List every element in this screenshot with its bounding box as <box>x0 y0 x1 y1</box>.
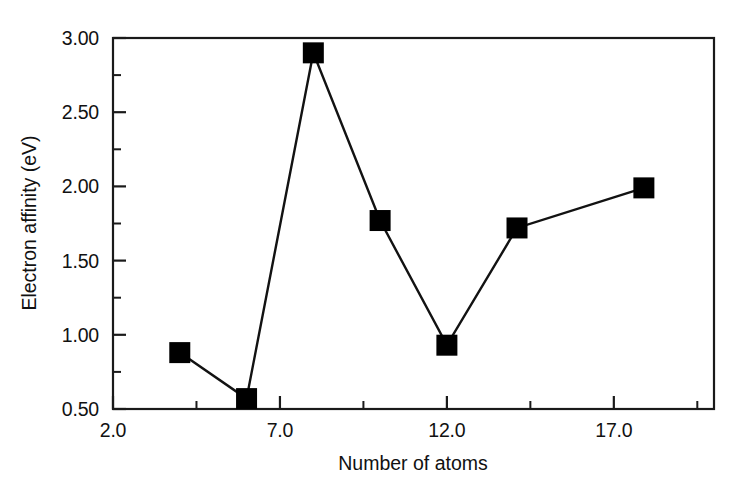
series-markers <box>169 42 654 409</box>
data-point-marker <box>370 210 391 231</box>
data-point-marker <box>633 177 654 198</box>
y-tick-label: 2.00 <box>62 175 99 198</box>
y-tick-label: 2.50 <box>62 101 99 124</box>
x-tick-label: 17.0 <box>595 419 632 442</box>
axes-frame <box>113 38 714 409</box>
y-tick-label: 0.50 <box>62 398 99 421</box>
data-series <box>169 42 654 409</box>
x-tick-label: 12.0 <box>428 419 465 442</box>
x-axis-title: Number of atoms <box>338 452 488 475</box>
axis-ticks <box>113 38 697 409</box>
data-point-marker <box>507 217 528 238</box>
data-point-marker <box>436 335 457 356</box>
x-tick-label: 2.0 <box>100 419 127 442</box>
y-tick-label: 1.00 <box>62 323 99 346</box>
series-line <box>180 53 644 399</box>
data-point-marker <box>236 388 257 409</box>
x-tick-label: 7.0 <box>267 419 294 442</box>
data-point-marker <box>169 342 190 363</box>
y-tick-label: 3.00 <box>62 27 99 50</box>
plot-frame <box>113 38 714 409</box>
y-tick-label: 1.50 <box>62 249 99 272</box>
figure-container: 3.002.502.001.501.000.50 2.07.012.017.0 … <box>0 0 744 492</box>
data-point-marker <box>303 42 324 63</box>
y-axis-title: Electron affinity (eV) <box>18 135 41 310</box>
